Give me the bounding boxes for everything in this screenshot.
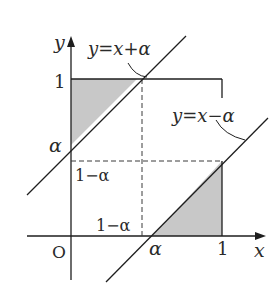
origin-label: O: [52, 242, 66, 262]
diagram-canvas: y x O 1 α 1−α 1−α α 1 y=x+α y=x−α: [0, 0, 279, 291]
x-axis-label: x: [254, 239, 265, 261]
y-tick-one-label: 1: [54, 71, 65, 92]
shaded-region-upper-left: [71, 79, 137, 145]
y-tick-alpha-label: α: [49, 134, 62, 156]
line-label-lower: y=x−α: [171, 105, 235, 126]
y-tick-one-minus-alpha-label: 1−α: [75, 166, 110, 185]
leader-arc-upper: [128, 63, 147, 77]
x-tick-one-label: 1: [217, 238, 228, 259]
x-tick-one-minus-alpha-label: 1−α: [96, 216, 131, 235]
line-y-equals-x-minus-alpha: [106, 118, 268, 282]
line-label-upper: y=x+α: [87, 38, 151, 59]
x-tick-alpha-label: α: [149, 237, 162, 259]
y-axis-arrow-icon: [67, 36, 75, 47]
y-axis-label: y: [53, 31, 65, 53]
